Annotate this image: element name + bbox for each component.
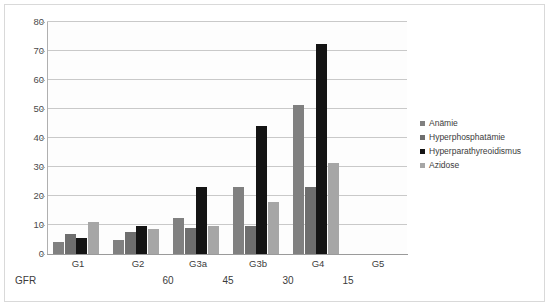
y-tick-label: 50 [6, 104, 44, 114]
bar-group-g3b [228, 22, 288, 254]
bar [256, 126, 267, 254]
bar [196, 187, 207, 254]
bar [268, 202, 279, 254]
bar [113, 240, 124, 255]
y-axis: 01020304050607080 [0, 22, 44, 255]
bar-group-g4 [288, 22, 348, 254]
legend-item[interactable]: Hyperphosphatämie [420, 130, 542, 144]
legend-label: Anämie [429, 118, 458, 128]
bar [136, 226, 147, 254]
y-tick-mark [41, 254, 45, 255]
bar [245, 226, 256, 254]
y-tick-mark [41, 138, 45, 139]
bar-group-g1 [48, 22, 108, 254]
legend-swatch-icon [420, 149, 425, 154]
x-axis-labels: G1G2G3aG3bG4G5 [48, 258, 408, 272]
legend-item[interactable]: Anämie [420, 116, 542, 130]
legend-swatch-icon [420, 163, 425, 168]
bar [53, 242, 64, 254]
y-tick-mark [41, 51, 45, 52]
bar [125, 232, 136, 254]
bar [148, 229, 159, 254]
bar-group-g2 [108, 22, 168, 254]
y-tick-mark [41, 80, 45, 81]
x-tick-label-g1: G1 [72, 258, 85, 270]
legend-label: Azidose [429, 160, 459, 170]
bar [208, 226, 219, 254]
legend-label: Hyperphosphatämie [429, 132, 505, 142]
y-tick-mark [41, 109, 45, 110]
bar [328, 163, 339, 254]
gfr-value: 45 [222, 274, 233, 288]
x-axis-line [47, 254, 408, 255]
y-tick-label: 40 [6, 133, 44, 143]
y-tick-label: 30 [6, 162, 44, 172]
x-tick-label-g3a: G3a [189, 258, 207, 270]
bar-group-g3a [168, 22, 228, 254]
bar [185, 228, 196, 254]
legend-item[interactable]: Hyperparathyreoidismus [420, 144, 542, 158]
gfr-axis-title: GFR [15, 274, 36, 288]
y-tick-mark [41, 22, 45, 23]
bar [76, 238, 87, 254]
bar [173, 218, 184, 254]
x-tick-label-g4: G4 [312, 258, 325, 270]
bar [316, 44, 327, 254]
bar [65, 234, 76, 254]
y-tick-mark [41, 196, 45, 197]
y-tick-label: 70 [6, 46, 44, 56]
legend: AnämieHyperphosphatämieHyperparathyreoid… [420, 116, 542, 172]
x-tick-label-g5: G5 [372, 258, 385, 270]
y-tick-label: 20 [6, 191, 44, 201]
legend-item[interactable]: Azidose [420, 158, 542, 172]
y-tick-mark [41, 225, 45, 226]
legend-label: Hyperparathyreoidismus [429, 146, 521, 156]
x-tick-label-g3b: G3b [249, 258, 267, 270]
bars-layer [48, 22, 408, 254]
legend-swatch-icon [420, 121, 425, 126]
y-tick-label: 10 [6, 220, 44, 230]
bar-group-g5 [348, 22, 408, 254]
gfr-value: 15 [342, 274, 353, 288]
gfr-value: 30 [282, 274, 293, 288]
bar [233, 187, 244, 254]
y-tick-label: 60 [6, 75, 44, 85]
bar [305, 187, 316, 254]
y-tick-label: 0 [6, 249, 44, 259]
bar [88, 222, 99, 254]
legend-swatch-icon [420, 135, 425, 140]
x-tick-label-g2: G2 [132, 258, 145, 270]
bar [293, 105, 304, 254]
gfr-values-row: 60453015 [48, 274, 408, 290]
y-tick-mark [41, 167, 45, 168]
y-tick-label: 80 [6, 17, 44, 27]
bar-chart-figure: 01020304050607080 G1G2G3aG3bG4G5 GFR 604… [0, 0, 550, 307]
gfr-value: 60 [162, 274, 173, 288]
